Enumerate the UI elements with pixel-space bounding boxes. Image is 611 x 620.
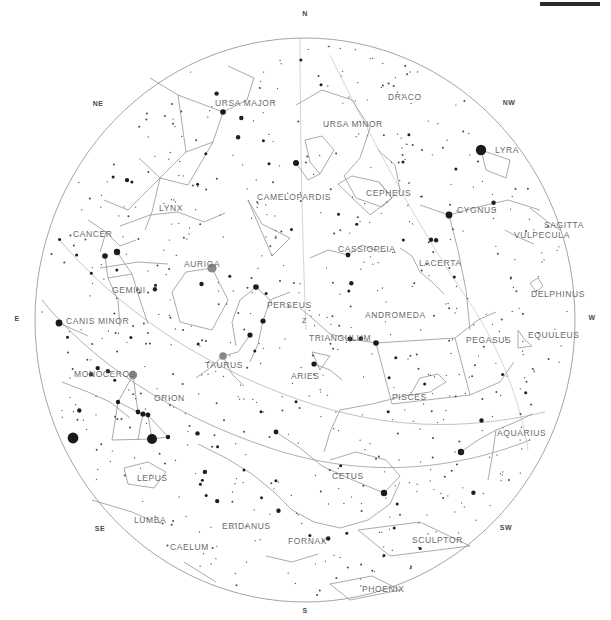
field-star (91, 343, 93, 345)
field-star (178, 223, 179, 224)
field-star (63, 262, 65, 264)
constellation-labels: URSA MAJORURSA MINORDRACOLYRACEPHEUSCYGN… (66, 92, 585, 594)
field-star (218, 282, 219, 283)
field-star (183, 237, 185, 239)
field-star (320, 416, 321, 417)
field-star (382, 287, 383, 288)
star-marker (458, 449, 464, 455)
field-star (95, 414, 96, 415)
field-star (242, 164, 243, 165)
field-star (218, 290, 219, 291)
field-star (89, 295, 90, 296)
field-star (292, 383, 293, 384)
constellation-label: SAGITTA (544, 220, 584, 230)
field-star (340, 48, 341, 49)
field-star (318, 75, 320, 77)
field-star (203, 553, 204, 554)
field-star (145, 119, 147, 121)
field-star (106, 181, 107, 182)
field-star (147, 332, 149, 334)
field-star (522, 313, 524, 315)
field-star (462, 131, 464, 133)
field-star (92, 283, 93, 284)
field-star (297, 121, 299, 123)
field-star (429, 238, 433, 242)
field-star (372, 58, 373, 59)
field-star (180, 111, 182, 113)
field-star (508, 479, 510, 481)
field-star (130, 181, 133, 184)
field-star (125, 178, 129, 182)
field-star (274, 215, 275, 216)
field-star (169, 317, 171, 319)
field-star (185, 413, 186, 414)
field-star (420, 196, 421, 197)
field-star (247, 287, 249, 289)
field-star (118, 215, 119, 216)
field-star (462, 487, 463, 488)
field-star (448, 340, 450, 342)
field-star (388, 376, 391, 379)
field-star (417, 71, 418, 72)
field-star (300, 367, 301, 368)
field-star (345, 532, 348, 535)
constellation-label: ERIDANUS (222, 521, 271, 531)
field-star (229, 355, 230, 356)
field-star (205, 494, 208, 497)
star-chart-canvas[interactable]: Z URSA MAJORURSA MINORDRACOLYRACEPHEUSCY… (0, 0, 611, 620)
field-star (349, 232, 350, 233)
field-star (335, 577, 337, 579)
field-star (305, 161, 307, 163)
field-star (189, 227, 190, 228)
field-star (116, 350, 118, 352)
field-star (410, 567, 412, 569)
field-star (385, 498, 386, 499)
field-star (215, 558, 216, 559)
field-star (140, 468, 141, 469)
field-star (210, 563, 211, 564)
field-star (112, 176, 115, 179)
field-star (456, 286, 457, 287)
field-star (332, 348, 334, 350)
field-star (269, 514, 270, 515)
field-star (187, 431, 188, 432)
field-star (116, 418, 118, 420)
field-star (352, 196, 353, 197)
field-star (261, 255, 262, 256)
field-star (483, 346, 485, 348)
field-star (335, 153, 337, 155)
field-star (433, 489, 434, 490)
field-star (496, 455, 497, 456)
field-star (325, 561, 326, 562)
field-star (132, 325, 134, 327)
field-star (558, 246, 559, 247)
field-star (316, 594, 318, 596)
field-star (61, 410, 62, 411)
field-star (233, 290, 234, 291)
zenith-marker: Z (302, 317, 307, 324)
field-star (195, 431, 199, 435)
star-marker (220, 109, 226, 115)
constellation-label: CAELUM (170, 542, 209, 552)
field-star (156, 388, 157, 389)
field-star (326, 317, 327, 318)
constellation-label: DELPHINUS (531, 289, 585, 299)
field-star (320, 83, 323, 86)
field-star (407, 205, 408, 206)
field-star (146, 423, 147, 424)
field-star (154, 284, 157, 287)
field-star (92, 267, 93, 268)
field-star (423, 403, 424, 404)
field-star (86, 429, 87, 430)
cardinal-label-nw: NW (503, 99, 516, 106)
field-star (474, 364, 476, 366)
field-star (499, 331, 500, 332)
field-star (195, 473, 196, 474)
field-star (319, 155, 320, 156)
field-star (263, 348, 264, 349)
field-star (121, 418, 123, 420)
field-star (360, 269, 361, 270)
field-star (329, 469, 331, 471)
field-star (432, 456, 434, 458)
field-star (259, 87, 261, 89)
